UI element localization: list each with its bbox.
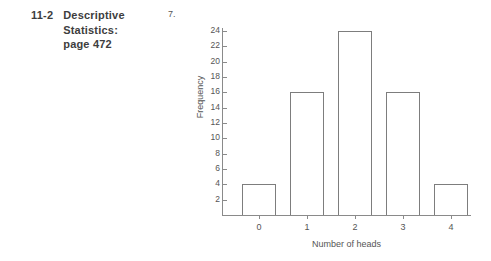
y-tick-mark <box>223 108 227 109</box>
y-tick-mark <box>223 200 227 201</box>
x-tick <box>355 215 356 219</box>
x-tick <box>307 215 308 219</box>
section-header: 11-2 Descriptive Statistics: page 472 <box>31 8 125 52</box>
y-tick: 2 <box>223 200 227 201</box>
y-tick: 8 <box>223 154 227 155</box>
y-tick-label: 16 <box>211 86 220 96</box>
y-tick-label: 20 <box>211 56 220 66</box>
y-tick-mark <box>223 31 227 32</box>
x-tick-label: 0 <box>256 222 261 232</box>
section-title-line-3: page 472 <box>63 37 125 52</box>
section-title-line-1: Descriptive <box>63 8 125 23</box>
section-title: Descriptive Statistics: page 472 <box>63 8 125 52</box>
y-tick: 24 <box>223 31 227 32</box>
y-tick-label: 2 <box>215 194 220 204</box>
x-axis-title: Number of heads <box>222 239 471 249</box>
y-tick-mark <box>223 46 227 47</box>
x-tick <box>451 215 452 219</box>
y-tick: 20 <box>223 62 227 63</box>
y-tick-mark <box>223 169 227 170</box>
y-tick-label: 8 <box>215 148 220 158</box>
y-tick-mark <box>223 123 227 124</box>
y-tick-mark <box>223 77 227 78</box>
y-tick: 12 <box>223 123 227 124</box>
y-tick-mark <box>223 138 227 139</box>
y-tick-label: 6 <box>215 163 220 173</box>
y-tick: 16 <box>223 92 227 93</box>
x-tick-label: 3 <box>400 222 405 232</box>
y-tick-label: 18 <box>211 71 220 81</box>
y-tick: 4 <box>223 184 227 185</box>
histogram-bar <box>434 184 468 215</box>
section-title-line-2: Statistics: <box>63 23 125 38</box>
y-tick: 14 <box>223 108 227 109</box>
y-tick: 6 <box>223 169 227 170</box>
y-tick-mark <box>223 92 227 93</box>
histogram-bar <box>290 92 324 215</box>
x-tick-label: 1 <box>304 222 309 232</box>
problem-number: 7. <box>168 9 176 19</box>
histogram-bar <box>386 92 420 215</box>
y-tick-mark <box>223 62 227 63</box>
y-tick-label: 24 <box>211 25 220 35</box>
y-tick-mark <box>223 184 227 185</box>
y-tick: 18 <box>223 77 227 78</box>
x-tick <box>403 215 404 219</box>
x-tick-label: 4 <box>448 222 453 232</box>
y-tick-mark <box>223 154 227 155</box>
y-tick-label: 12 <box>211 117 220 127</box>
y-axis-line <box>222 28 223 216</box>
y-tick: 10 <box>223 138 227 139</box>
section-number: 11-2 <box>31 8 53 23</box>
plot-area: 24681012141618202224 01234 Frequency Num… <box>185 14 485 254</box>
y-tick-label: 22 <box>211 40 220 50</box>
histogram-figure: 24681012141618202224 01234 Frequency Num… <box>185 14 485 254</box>
y-tick-label: 14 <box>211 102 220 112</box>
x-tick <box>259 215 260 219</box>
y-tick-label: 10 <box>211 132 220 142</box>
x-tick-label: 2 <box>352 222 357 232</box>
y-tick-label: 4 <box>215 178 220 188</box>
y-tick: 22 <box>223 46 227 47</box>
histogram-bar <box>242 184 276 215</box>
histogram-bar <box>338 31 372 215</box>
y-axis-title: Frequency <box>195 76 205 119</box>
